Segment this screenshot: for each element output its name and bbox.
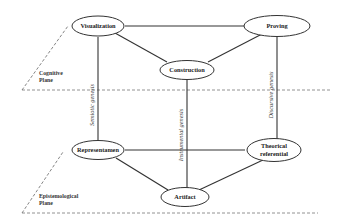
instrumental-genesis-label: Instrumental genesis — [177, 108, 184, 162]
node-construction-label: Construction — [169, 66, 205, 73]
node-theorical-label-2: referential — [260, 150, 288, 157]
epistemological-plane-label-2: Plane — [39, 200, 53, 206]
cognitive-plane-label-1: Cognitive — [39, 70, 63, 76]
edge-representamen-artifact — [116, 158, 168, 190]
edges — [98, 26, 277, 197]
node-representamen: Representamen — [72, 141, 124, 160]
edge-visualization-construction — [115, 33, 167, 62]
node-visualization-label: Visualization — [80, 22, 116, 29]
edge-theorical-artifact — [199, 160, 263, 190]
edge-proving-construction — [208, 34, 262, 62]
discursive-genesis-label: Discursive genesis — [267, 71, 274, 120]
node-theorical-label-1: Theorical — [261, 142, 287, 149]
node-theorical-referential: Theorical referential — [247, 139, 301, 162]
node-artifact: Artifact — [161, 188, 209, 207]
semiotic-genesis-label: Semiotic genesis — [88, 84, 95, 126]
node-artifact-label: Artifact — [174, 193, 196, 200]
epistemological-plane-label-1: Epistemological — [39, 193, 79, 199]
cognitive-plane-label-2: Plane — [39, 77, 53, 83]
node-proving-label: Proving — [266, 22, 288, 29]
node-construction: Construction — [160, 61, 214, 80]
node-proving: Proving — [244, 16, 310, 37]
node-visualization: Visualization — [72, 16, 124, 36]
diagram-canvas: Visualization Proving Construction Repre… — [0, 0, 345, 222]
node-representamen-label: Representamen — [77, 146, 119, 153]
